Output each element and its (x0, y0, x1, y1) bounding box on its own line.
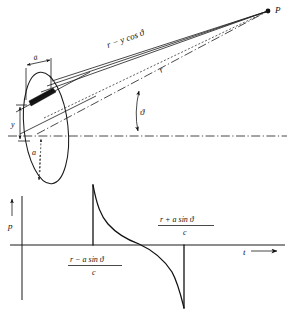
asymptote-right-numerator: r + a sin ϑ (160, 215, 195, 224)
angle-arc-theta (136, 91, 139, 131)
ray-center-r (37, 11, 268, 134)
ray-near-label: r − y cos ϑ (105, 27, 146, 50)
observation-point-label: P (274, 5, 281, 15)
asymptote-left-label: r − a sin ϑ c (68, 255, 122, 277)
plot-y-axis-label: p (7, 221, 13, 231)
asymptote-left-denominator: c (92, 268, 96, 277)
asymptote-left-numerator: r − a sin ϑ (70, 255, 105, 264)
dimension-arrow-a-top (27, 60, 50, 65)
radius-label-top: a (33, 52, 39, 62)
radius-label-inner: a (32, 148, 36, 157)
source-element-strip (29, 88, 56, 106)
height-label-y: y (10, 120, 15, 129)
plot-x-axis-label: t (243, 247, 246, 257)
ray-r-label: r (157, 64, 165, 75)
ray-construction (44, 11, 268, 118)
asymptote-right-denominator: c (183, 228, 187, 237)
chord-line-upper (16, 72, 90, 112)
angle-label-theta: ϑ (140, 107, 145, 117)
source-disc-ellipse (18, 70, 73, 186)
figure-canvas: P r − y cos ϑ r ϑ (0, 0, 295, 322)
pressure-curve (93, 185, 184, 308)
ray-upper-inner (47, 11, 268, 86)
source-geometry-diagram: P r − y cos ϑ r ϑ (8, 5, 287, 186)
pressure-time-plot: p t r − a sin ϑ c r + a sin ϑ c (7, 185, 285, 308)
figure-root: P r − y cos ϑ r ϑ (0, 0, 295, 322)
asymptote-right-label: r + a sin ϑ c (158, 215, 214, 237)
